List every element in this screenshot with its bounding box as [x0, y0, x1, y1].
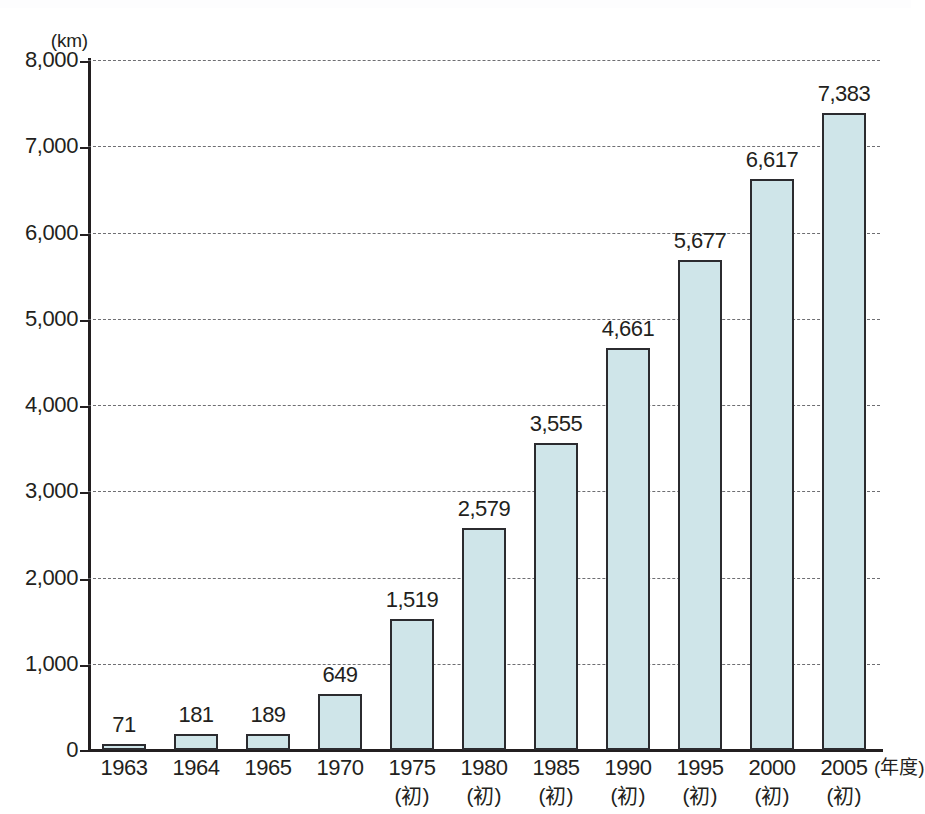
- x-axis-sublabel: (初): [448, 782, 520, 810]
- bar-value-label: 71: [112, 712, 135, 738]
- bar-value-label: 3,555: [530, 411, 583, 437]
- x-axis-unit-label: (年度): [874, 754, 925, 782]
- bar[interactable]: [606, 348, 650, 750]
- y-axis-tick-mark: [80, 406, 88, 408]
- x-axis-tick-label: 1985(初): [520, 754, 592, 810]
- x-axis-year: 1964: [160, 754, 232, 782]
- x-axis-sublabel: (初): [664, 782, 736, 810]
- bar-slot: 5,677: [664, 60, 736, 750]
- bar[interactable]: [318, 694, 362, 750]
- bar[interactable]: [102, 744, 146, 750]
- bar-value-label: 5,677: [674, 228, 727, 254]
- bar[interactable]: [534, 443, 578, 750]
- bar[interactable]: [174, 734, 218, 750]
- x-axis-sublabel: (初): [808, 782, 880, 810]
- bar-value-label: 1,519: [386, 587, 439, 613]
- y-axis-tick-label: 2,000: [0, 565, 78, 591]
- x-axis-year: 1995: [664, 754, 736, 782]
- x-axis-year: 1970: [304, 754, 376, 782]
- bar-value-label: 181: [178, 702, 213, 728]
- y-axis-tick-mark: [80, 320, 88, 322]
- cropped-header-strip: [0, 0, 911, 8]
- bar-value-label: 189: [250, 702, 285, 728]
- y-axis-tick-label: 5,000: [0, 306, 78, 332]
- y-axis-tick-label: 6,000: [0, 220, 78, 246]
- bar-value-label: 4,661: [602, 316, 655, 342]
- bar-slot: 649: [304, 60, 376, 750]
- bar-slot: 181: [160, 60, 232, 750]
- bar[interactable]: [750, 179, 794, 750]
- bar-value-label: 649: [322, 662, 357, 688]
- bar[interactable]: [678, 260, 722, 750]
- y-axis-tick-label: 4,000: [0, 392, 78, 418]
- bar-value-label: 7,383: [818, 81, 871, 107]
- x-axis-tick-label: 1964: [160, 754, 232, 782]
- y-axis-tick-label: 1,000: [0, 651, 78, 677]
- x-axis-tick-label: 1980(初): [448, 754, 520, 810]
- bar-slot: 189: [232, 60, 304, 750]
- bar-slot: 4,661: [592, 60, 664, 750]
- bar-value-label: 6,617: [746, 147, 799, 173]
- x-axis-year: 1963: [88, 754, 160, 782]
- y-axis-tick-labels: 8,0007,0006,0005,0004,0003,0002,0001,000…: [0, 60, 78, 750]
- y-axis-tick-mark: [80, 665, 88, 667]
- y-axis-tick-mark: [80, 147, 88, 149]
- x-axis-tick-label: 1963: [88, 754, 160, 782]
- x-axis-tick-label: 1965: [232, 754, 304, 782]
- x-axis-year: 2005: [808, 754, 880, 782]
- bar[interactable]: [462, 528, 506, 750]
- x-axis-sublabel: (初): [520, 782, 592, 810]
- bar-slot: 3,555: [520, 60, 592, 750]
- y-axis-tick-label: 7,000: [0, 133, 78, 159]
- x-axis-tick-label: 1990(初): [592, 754, 664, 810]
- bar-slot: 2,579: [448, 60, 520, 750]
- x-axis-year: 1980: [448, 754, 520, 782]
- y-axis-tick-label: 8,000: [0, 47, 78, 73]
- y-axis-tick-mark: [80, 61, 88, 63]
- x-axis-year: 1985: [520, 754, 592, 782]
- plot-area: 711811896491,5192,5793,5554,6615,6776,61…: [88, 60, 880, 750]
- bar[interactable]: [390, 619, 434, 750]
- x-axis-tick-labels: 19631964196519701975(初)1980(初)1985(初)199…: [88, 754, 880, 814]
- y-axis-tick-mark: [80, 234, 88, 236]
- bar[interactable]: [822, 113, 866, 750]
- x-axis-tick-label: 2000(初): [736, 754, 808, 810]
- x-axis-year: 1990: [592, 754, 664, 782]
- y-axis-tick-label: 0: [0, 737, 78, 763]
- x-axis-year: 1975: [376, 754, 448, 782]
- x-axis-sublabel: (初): [592, 782, 664, 810]
- bar[interactable]: [246, 734, 290, 750]
- y-axis-tick-mark: [80, 579, 88, 581]
- x-axis-year: 1965: [232, 754, 304, 782]
- x-axis-tick-label: 1975(初): [376, 754, 448, 810]
- bar-slot: 1,519: [376, 60, 448, 750]
- y-axis-tick-label: 3,000: [0, 478, 78, 504]
- bar-value-label: 2,579: [458, 496, 511, 522]
- bar-series: 711811896491,5192,5793,5554,6615,6776,61…: [88, 60, 880, 750]
- x-axis-sublabel: (初): [376, 782, 448, 810]
- x-axis-tick-label: 1970: [304, 754, 376, 782]
- x-axis-sublabel: (初): [736, 782, 808, 810]
- y-axis-tick-mark: [80, 750, 88, 752]
- x-axis-tick-label: 2005(初): [808, 754, 880, 810]
- bar-slot: 7,383: [808, 60, 880, 750]
- bar-slot: 71: [88, 60, 160, 750]
- x-axis-year: 2000: [736, 754, 808, 782]
- bar-slot: 6,617: [736, 60, 808, 750]
- y-axis-tick-mark: [80, 492, 88, 494]
- x-axis-tick-label: 1995(初): [664, 754, 736, 810]
